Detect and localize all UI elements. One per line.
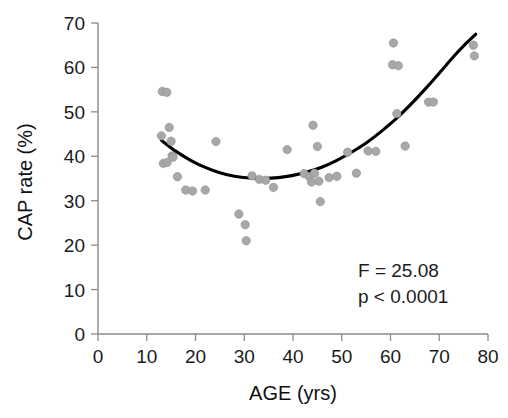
data-point bbox=[393, 109, 401, 117]
data-points-group bbox=[157, 39, 478, 245]
chart-figure: 010203040506070 01020304050607080 AGE (y… bbox=[0, 0, 508, 418]
x-tick-label: 80 bbox=[477, 346, 498, 367]
y-tick-label: 50 bbox=[64, 102, 85, 123]
data-point bbox=[333, 172, 341, 180]
data-point bbox=[188, 187, 196, 195]
data-point bbox=[352, 169, 360, 177]
data-point bbox=[201, 186, 209, 194]
y-axis-ticks: 010203040506070 bbox=[64, 13, 98, 345]
data-point bbox=[241, 221, 249, 229]
data-point bbox=[167, 137, 175, 145]
y-tick-label: 20 bbox=[64, 235, 85, 256]
x-axis-title: AGE (yrs) bbox=[249, 382, 337, 404]
x-tick-label: 10 bbox=[136, 346, 157, 367]
scatter-plot: 010203040506070 01020304050607080 AGE (y… bbox=[0, 0, 508, 418]
data-point bbox=[235, 210, 243, 218]
data-point bbox=[343, 148, 351, 156]
data-point bbox=[470, 52, 478, 60]
x-axis-ticks: 01020304050607080 bbox=[93, 334, 499, 367]
data-point bbox=[325, 173, 333, 181]
data-point bbox=[309, 121, 317, 129]
y-tick-label: 60 bbox=[64, 57, 85, 78]
data-point bbox=[212, 137, 220, 145]
data-point bbox=[316, 197, 324, 205]
data-point bbox=[169, 153, 177, 161]
y-tick-label: 40 bbox=[64, 146, 85, 167]
data-point bbox=[165, 123, 173, 131]
data-point bbox=[242, 237, 250, 245]
y-tick-label: 30 bbox=[64, 191, 85, 212]
y-tick-label: 10 bbox=[64, 280, 85, 301]
data-point bbox=[283, 145, 291, 153]
x-tick-label: 20 bbox=[185, 346, 206, 367]
data-point bbox=[389, 39, 397, 47]
f-statistic-label: F = 25.08 bbox=[358, 260, 439, 281]
x-tick-label: 60 bbox=[380, 346, 401, 367]
data-point bbox=[310, 169, 318, 177]
data-point bbox=[394, 61, 402, 69]
data-point bbox=[262, 176, 270, 184]
x-tick-label: 0 bbox=[93, 346, 104, 367]
p-value-label: p < 0.0001 bbox=[358, 286, 448, 307]
x-tick-label: 50 bbox=[331, 346, 352, 367]
data-point bbox=[173, 173, 181, 181]
y-tick-label: 0 bbox=[74, 324, 85, 345]
x-tick-label: 70 bbox=[429, 346, 450, 367]
data-point bbox=[313, 142, 321, 150]
data-point bbox=[157, 132, 165, 140]
x-tick-label: 30 bbox=[234, 346, 255, 367]
data-point bbox=[163, 88, 171, 96]
y-tick-label: 70 bbox=[64, 13, 85, 34]
data-point bbox=[372, 147, 380, 155]
data-point bbox=[429, 98, 437, 106]
data-point bbox=[364, 147, 372, 155]
data-point bbox=[469, 41, 477, 49]
data-point bbox=[269, 183, 277, 191]
data-point bbox=[315, 177, 323, 185]
y-axis-title: CAP rate (%) bbox=[14, 123, 36, 240]
x-tick-label: 40 bbox=[282, 346, 303, 367]
data-point bbox=[401, 142, 409, 150]
